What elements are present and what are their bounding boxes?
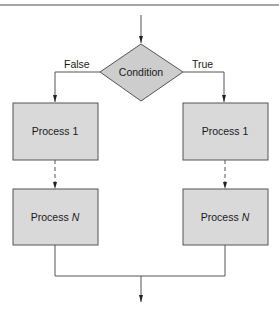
- false-process-n-label: Process N: [31, 211, 80, 223]
- true-process-n-label: Process N: [201, 211, 250, 223]
- false-branch-connector: [55, 72, 100, 102]
- false-process-1-label: Process 1: [32, 125, 79, 137]
- entry-arrow-head: [139, 36, 143, 43]
- merge-connector: [55, 245, 225, 276]
- false-dashed-arrow-head: [53, 182, 57, 189]
- flowchart-diagram: Condition False True Process 1 Process 1…: [0, 0, 279, 312]
- true-dashed-arrow-head: [223, 182, 227, 189]
- false-branch-arrow-head: [53, 95, 57, 102]
- true-branch-label: True: [192, 58, 213, 70]
- decision-label: Condition: [119, 66, 164, 78]
- true-process-1-label: Process 1: [202, 125, 249, 137]
- true-branch-connector: [183, 72, 224, 102]
- exit-arrow-head: [139, 295, 143, 302]
- true-branch-arrow-head: [222, 95, 226, 102]
- false-branch-label: False: [64, 58, 90, 70]
